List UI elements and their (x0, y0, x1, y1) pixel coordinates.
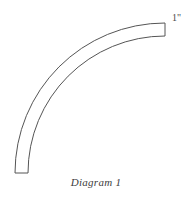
curved-band-drawing (0, 0, 192, 200)
figure-caption: Diagram 1 (0, 177, 192, 188)
figure-stage: 1" Diagram 1 (0, 0, 192, 200)
dimension-label-one-inch: 1" (172, 13, 181, 23)
